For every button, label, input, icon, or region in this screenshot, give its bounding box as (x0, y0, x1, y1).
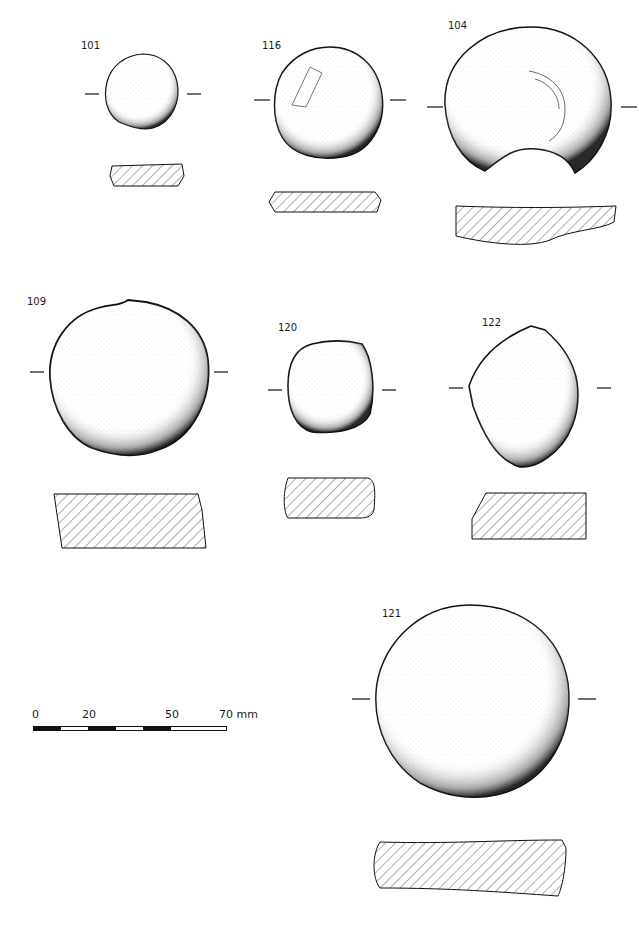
object-120-plan (266, 338, 402, 438)
object-101-section (108, 160, 188, 190)
scale-bar: 0 20 50 70 mm (32, 708, 262, 738)
object-101-plan (85, 52, 205, 132)
object-label-120: 120 (278, 322, 297, 333)
scale-tick-20: 20 (82, 708, 96, 721)
object-116-section (267, 188, 385, 218)
object-109-section (52, 490, 212, 552)
object-122-plan (447, 322, 617, 472)
object-109-plan (28, 298, 233, 463)
scale-tick-70: 70 mm (219, 708, 258, 721)
object-104-plan (425, 25, 639, 185)
object-label-101: 101 (81, 40, 100, 51)
object-121-section (370, 838, 570, 898)
scale-bar-graphic (33, 726, 228, 732)
scale-tick-0: 0 (32, 708, 39, 721)
object-121-plan (350, 603, 600, 805)
object-122-section (468, 491, 592, 543)
object-120-section (280, 474, 380, 522)
object-104-section (450, 200, 620, 252)
object-116-plan (252, 45, 412, 165)
scale-tick-50: 50 (165, 708, 179, 721)
